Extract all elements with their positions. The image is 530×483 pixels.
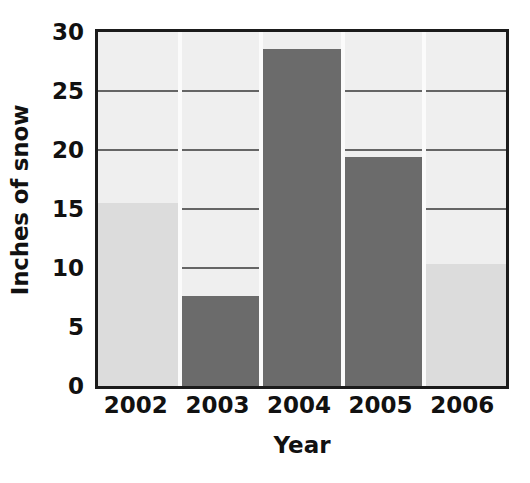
- bar-separator: [259, 32, 263, 386]
- y-tick-label-30: 30: [52, 19, 84, 45]
- bar-separator: [341, 32, 345, 386]
- x-tick-label-2006: 2006: [430, 392, 494, 418]
- x-axis-title: Year: [95, 432, 509, 458]
- bar-2005[interactable]: [343, 157, 425, 386]
- plot-area: [95, 29, 509, 389]
- x-tick-label-2003: 2003: [185, 392, 249, 418]
- y-axis-title: Inches of snow: [0, 0, 40, 400]
- bar-2002[interactable]: [98, 203, 180, 386]
- y-tick-label-5: 5: [68, 314, 84, 340]
- y-tick-label-20: 20: [52, 137, 84, 163]
- bar-separator: [178, 32, 182, 386]
- y-tick-label-15: 15: [52, 196, 84, 222]
- y-tick-label-10: 10: [52, 255, 84, 281]
- plot-inner: [98, 32, 506, 386]
- bar-2004[interactable]: [261, 49, 343, 386]
- x-axis-tick-labels: 20022003200420052006: [95, 392, 509, 428]
- y-axis-title-text: Inches of snow: [7, 105, 33, 295]
- y-tick-label-25: 25: [52, 78, 84, 104]
- x-tick-label-2004: 2004: [267, 392, 331, 418]
- x-tick-label-2002: 2002: [104, 392, 168, 418]
- x-tick-label-2005: 2005: [349, 392, 413, 418]
- bar-separator: [422, 32, 426, 386]
- bar-2006[interactable]: [424, 264, 506, 386]
- y-axis-tick-labels: 051015202530: [38, 0, 90, 483]
- bar-chart-figure: Inches of snow 051015202530 200220032004…: [0, 0, 530, 483]
- bar-2003[interactable]: [180, 296, 262, 386]
- y-tick-label-0: 0: [68, 373, 84, 399]
